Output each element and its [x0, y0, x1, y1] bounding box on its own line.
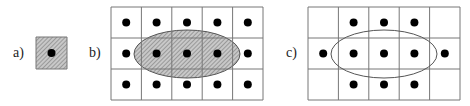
grid-dot — [441, 50, 449, 58]
grid-dot — [410, 50, 418, 58]
grid-dot — [153, 19, 161, 27]
grid-dot — [350, 50, 358, 58]
grid-dot — [183, 50, 191, 58]
diagram-canvas — [0, 0, 470, 106]
grid-dot — [122, 50, 130, 58]
grid-dot — [350, 81, 358, 89]
grid-dot — [213, 81, 221, 89]
grid-dot — [183, 81, 191, 89]
grid-dot — [183, 19, 191, 27]
panel-b-grid-hatched-ellipse — [111, 7, 263, 100]
grid-dot — [244, 50, 252, 58]
grid-dot — [213, 50, 221, 58]
panel-a-single-cell — [36, 37, 67, 69]
grid-dot — [48, 49, 56, 57]
grid-dot — [122, 19, 130, 27]
grid-dot — [244, 81, 252, 89]
grid-dot — [380, 19, 388, 27]
grid-dot — [153, 50, 161, 58]
grid-dot — [122, 81, 130, 89]
panel-c-grid-outline-ellipse — [308, 7, 460, 100]
grid-dot — [244, 19, 252, 27]
grid-dot — [410, 81, 418, 89]
grid-dot — [213, 19, 221, 27]
grid-dot — [350, 19, 358, 27]
grid-dot — [380, 50, 388, 58]
grid-dot — [380, 81, 388, 89]
grid-dot — [153, 81, 161, 89]
grid-dot — [410, 19, 418, 27]
diagram-stage: a) b) c) — [0, 0, 470, 106]
grid-dot — [319, 50, 327, 58]
